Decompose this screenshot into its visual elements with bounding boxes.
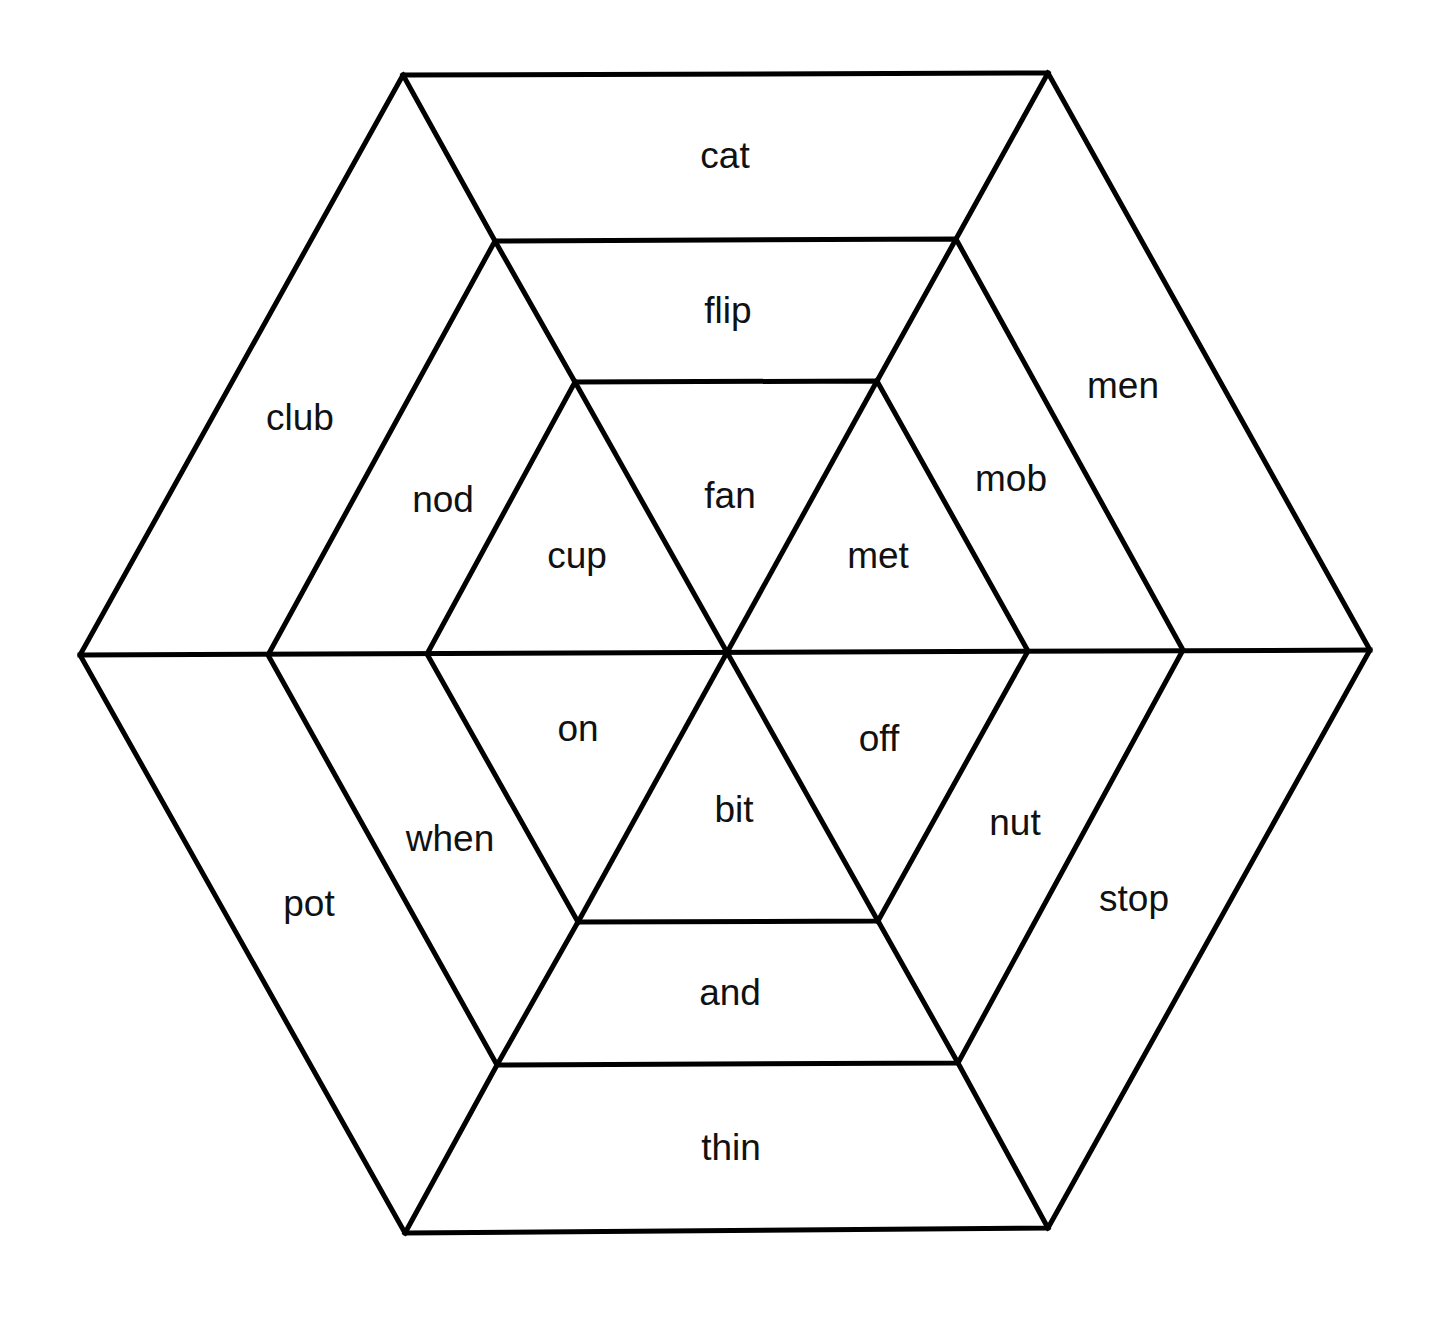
word-cell-flip[interactable]: flip (704, 292, 751, 329)
word-cell-nut[interactable]: nut (989, 804, 1040, 841)
word-cell-cat[interactable]: cat (700, 137, 749, 174)
spoke-bottom-left (405, 922, 578, 1233)
hexagon-web-diagram (0, 0, 1448, 1319)
word-cell-fan[interactable]: fan (704, 477, 755, 514)
word-cell-nod[interactable]: nod (412, 481, 474, 518)
spoke-top-left (403, 75, 575, 382)
word-cell-off[interactable]: off (859, 720, 899, 757)
spoke-top-right (877, 73, 1048, 381)
word-cell-thin[interactable]: thin (701, 1129, 761, 1166)
word-cell-met[interactable]: met (847, 537, 909, 574)
spoke-bottom-right (878, 921, 1048, 1228)
word-cell-cup[interactable]: cup (547, 537, 607, 574)
word-cell-men[interactable]: men (1087, 367, 1159, 404)
word-cell-stop[interactable]: stop (1099, 880, 1169, 917)
word-cell-mob[interactable]: mob (975, 460, 1047, 497)
word-cell-club[interactable]: club (266, 399, 334, 436)
word-cell-on[interactable]: on (557, 710, 598, 747)
word-cell-when[interactable]: when (406, 820, 494, 857)
word-cell-bit[interactable]: bit (714, 791, 753, 828)
word-cell-and[interactable]: and (699, 974, 761, 1011)
word-cell-pot[interactable]: pot (283, 885, 334, 922)
